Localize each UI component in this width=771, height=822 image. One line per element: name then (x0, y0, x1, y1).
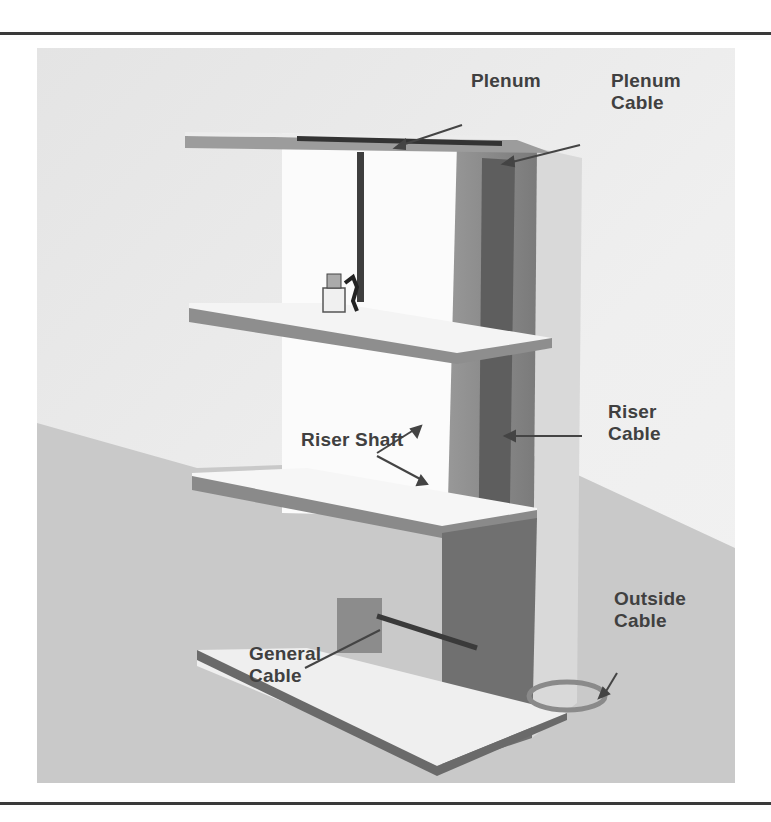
label-riser-shaft-line1: Riser Shaft (301, 429, 404, 451)
device-monitor (327, 274, 341, 288)
label-general-cable: General Cable (249, 643, 321, 687)
label-plenum-cable-line1: Plenum (611, 70, 681, 92)
general-equipment (337, 598, 382, 653)
bottom-rule (0, 802, 771, 805)
label-plenum-cable: Plenum Cable (611, 70, 681, 114)
label-outside-cable-line2: Cable (614, 610, 686, 632)
outer-wall (532, 148, 582, 738)
label-general-cable-line1: General (249, 643, 321, 665)
label-riser-cable-line2: Cable (608, 423, 661, 445)
label-plenum-cable-line2: Cable (611, 92, 681, 114)
label-plenum: Plenum (471, 70, 541, 92)
label-riser-cable: Riser Cable (608, 401, 661, 445)
label-riser-shaft: Riser Shaft (301, 429, 404, 451)
drop-cable-shape (357, 152, 364, 302)
device-box (323, 288, 345, 312)
top-rule (0, 32, 771, 35)
label-outside-cable: Outside Cable (614, 588, 686, 632)
label-plenum-line1: Plenum (471, 70, 541, 92)
label-general-cable-line2: Cable (249, 665, 321, 687)
label-outside-cable-line1: Outside (614, 588, 686, 610)
label-riser-cable-line1: Riser (608, 401, 661, 423)
building-cable-illustration: Plenum Plenum Cable Riser Shaft Riser Ca… (37, 48, 735, 783)
